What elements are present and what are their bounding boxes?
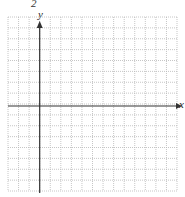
coordinate-plane (0, 0, 185, 197)
x-axis-arrow-icon (176, 103, 182, 109)
y-axis-arrow-icon (37, 21, 43, 28)
grid-lines (8, 17, 177, 191)
